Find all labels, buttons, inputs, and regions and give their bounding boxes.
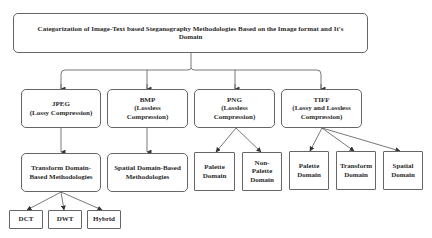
transform-domain-methods-box: Transform Domain- Based Methodologies — [21, 153, 101, 192]
root-category-box: Categorization of Image-Text based Stega… — [13, 13, 368, 53]
dct-box: DCT — [9, 210, 43, 229]
png-palette-domain-label: Palette Domain — [203, 163, 227, 180]
tiff-spatial-domain-label: Spatial Domain — [391, 162, 415, 179]
transform-domain-methods-label: Transform Domain- Based Methodologies — [29, 164, 92, 181]
png-non-palette-domain-box: Non- Palette Domain — [242, 152, 282, 191]
hybrid-label: Hybrid — [93, 215, 115, 224]
hybrid-box: Hybrid — [87, 210, 121, 229]
tiff-palette-domain-box: Palette Domain — [289, 151, 329, 190]
bmp-format-label: BMP (Lossless Compression) — [127, 96, 168, 122]
png-format-label: PNG (Lossless Compression) — [214, 96, 255, 122]
png-palette-domain-box: Palette Domain — [194, 152, 235, 191]
dwt-box: DWT — [48, 210, 82, 229]
bmp-format-box: BMP (Lossless Compression) — [107, 89, 188, 128]
png-non-palette-domain-label: Non- Palette Domain — [250, 159, 274, 185]
jpeg-format-label: JPEG (Lossy Compression) — [30, 100, 93, 117]
tiff-transform-domain-label: Transform Domain — [340, 162, 372, 179]
tiff-spatial-domain-box: Spatial Domain — [383, 151, 423, 190]
dwt-label: DWT — [57, 215, 74, 224]
spatial-domain-methods-box: Spatial Domain-Based Methodologies — [107, 153, 188, 192]
png-format-box: PNG (Lossless Compression) — [194, 89, 275, 128]
tiff-format-label: TIFF (Lossy and Lossless Compression) — [292, 96, 350, 122]
tiff-format-box: TIFF (Lossy and Lossless Compression) — [281, 89, 362, 128]
tiff-palette-domain-label: Palette Domain — [297, 162, 321, 179]
tiff-transform-domain-box: Transform Domain — [336, 151, 376, 190]
jpeg-format-box: JPEG (Lossy Compression) — [21, 89, 101, 128]
spatial-domain-methods-label: Spatial Domain-Based Methodologies — [114, 164, 181, 181]
root-category-label: Categorization of Image-Text based Stega… — [38, 25, 344, 42]
dct-label: DCT — [19, 215, 34, 224]
